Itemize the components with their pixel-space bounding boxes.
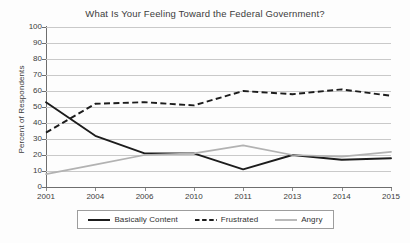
y-axis-tick-label: 10 [18, 167, 42, 175]
x-axis-tick-label: 2011 [218, 192, 268, 201]
legend-label-angry: Angry [301, 215, 322, 224]
y-axis-tick-label: 30 [18, 135, 42, 143]
series-lines [46, 27, 391, 187]
y-axis-tick-mark [42, 91, 46, 92]
legend-swatch-solid-gray-icon [275, 216, 297, 224]
y-axis-tick-mark [42, 43, 46, 44]
legend-swatch-solid-black-icon [88, 216, 110, 224]
y-axis-tick-label: 50 [18, 103, 42, 111]
x-axis-tick-mark [292, 188, 293, 191]
x-axis-tick-label: 2013 [267, 192, 317, 201]
y-axis-tick-mark [42, 75, 46, 76]
y-axis-tick-mark [42, 171, 46, 172]
x-axis-tick-mark [342, 188, 343, 191]
y-axis-tick-label: 60 [18, 87, 42, 95]
chart-figure: What Is Your Feeling Toward the Federal … [0, 0, 410, 243]
legend-swatch-dashed-black-icon [195, 216, 217, 224]
chart-legend: Basically Content Frustrated Angry [77, 210, 334, 229]
y-axis-tick-labels: 1009080706050403020100 [14, 27, 42, 187]
y-axis-tick-mark [42, 123, 46, 124]
legend-label-frustrated: Frustrated [221, 215, 258, 224]
y-axis-tick-label: 70 [18, 71, 42, 79]
x-axis-tick-mark [194, 188, 195, 191]
x-axis-line [46, 187, 392, 188]
legend-item-angry[interactable]: Angry [275, 215, 322, 224]
x-axis-tick-mark [95, 188, 96, 191]
x-axis-tick-mark [145, 188, 146, 191]
x-axis-tick-label: 2006 [120, 192, 170, 201]
y-axis-tick-mark [42, 27, 46, 28]
legend-item-frustrated[interactable]: Frustrated [195, 215, 258, 224]
y-axis-tick-label: 40 [18, 119, 42, 127]
y-axis-tick-mark [42, 59, 46, 60]
legend-label-basically-content: Basically Content [114, 215, 178, 224]
y-axis-tick-mark [42, 107, 46, 108]
series-line-frustrated [46, 89, 391, 132]
y-axis-tick-mark [42, 139, 46, 140]
y-axis-tick-label: 20 [18, 151, 42, 159]
x-axis-tick-mark [391, 188, 392, 191]
y-axis-tick-label: 100 [18, 23, 42, 31]
y-axis-tick-mark [42, 155, 46, 156]
chart-title: What Is Your Feeling Toward the Federal … [0, 8, 410, 19]
y-axis-tick-label: 80 [18, 55, 42, 63]
x-axis-tick-label: 2004 [70, 192, 120, 201]
x-axis-tick-mark [46, 188, 47, 191]
y-axis-tick-label: 90 [18, 39, 42, 47]
series-line-basically-content [46, 102, 391, 169]
x-axis-tick-label: 2001 [21, 192, 71, 201]
legend-item-basically-content[interactable]: Basically Content [88, 215, 178, 224]
x-axis-tick-mark [243, 188, 244, 191]
x-axis-tick-label: 2010 [169, 192, 219, 201]
y-axis-tick-label: 0 [18, 183, 42, 191]
x-axis-tick-label: 2015 [366, 192, 410, 201]
x-axis-tick-label: 2014 [317, 192, 367, 201]
plot-area [46, 27, 391, 187]
